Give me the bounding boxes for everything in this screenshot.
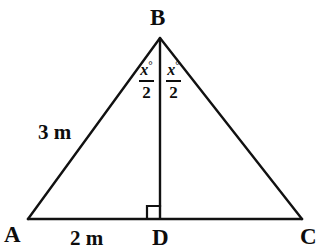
angle-label-right-denominator: 2 — [169, 83, 178, 101]
angle-label-right-numerator: x° — [166, 62, 180, 79]
vertex-label-b: B — [150, 6, 165, 29]
length-label-ab: 3 m — [38, 122, 71, 143]
segment-bc — [160, 38, 302, 219]
geometry-diagram-canvas: B A D C 3 m 2 m x° 2 x° 2 — [0, 0, 327, 249]
length-label-ad: 2 m — [70, 228, 103, 249]
angle-label-left-denominator: 2 — [142, 83, 151, 101]
angle-label-left-numerator: x° — [139, 62, 153, 79]
vertex-label-c: C — [300, 225, 317, 248]
angle-label-left: x° 2 — [139, 62, 154, 101]
right-angle-marker — [147, 206, 160, 219]
degree-symbol-icon-right: ° — [175, 59, 179, 71]
vertex-label-a: A — [4, 223, 21, 246]
vertex-label-d: D — [152, 226, 169, 249]
degree-symbol-icon-left: ° — [148, 59, 152, 71]
fraction-bar-right — [166, 80, 181, 82]
angle-label-right: x° 2 — [166, 62, 181, 101]
fraction-bar-left — [139, 80, 154, 82]
